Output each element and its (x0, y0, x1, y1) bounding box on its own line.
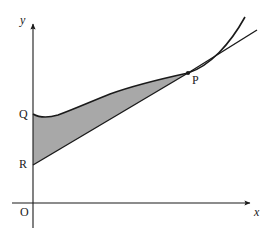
point-p-marker (186, 71, 190, 75)
figure-canvas: y x O Q R P (0, 0, 268, 232)
diagram-svg (0, 0, 268, 232)
point-label-r: R (19, 158, 27, 170)
tangent-line (188, 30, 257, 73)
origin-label: O (20, 206, 29, 218)
y-axis-label: y (20, 14, 25, 26)
x-axis-label: x (254, 206, 259, 218)
point-label-p: P (192, 74, 199, 86)
point-label-q: Q (19, 108, 28, 120)
